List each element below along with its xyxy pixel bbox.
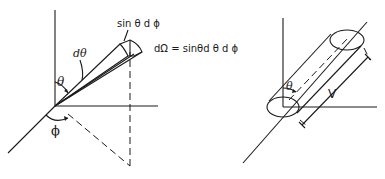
arc-length-label: sin θ d ϕ <box>117 18 160 29</box>
arc-label-pointer <box>124 30 128 41</box>
dtheta-label: dθ <box>73 47 87 60</box>
azimuth-projection-line <box>68 114 130 166</box>
right-panel: θ V <box>243 18 377 163</box>
dtheta-arc <box>80 60 83 80</box>
diagram-canvas: θ dθ ϕ sin θ d ϕ dΩ = sinθd θ d ϕ θ V <box>0 0 385 179</box>
cone-edge-inner <box>58 54 134 104</box>
cylinder-side-right <box>297 46 361 113</box>
theta-label: θ <box>57 75 65 89</box>
cylinder-side-left <box>269 34 331 101</box>
left-panel: θ dθ ϕ sin θ d ϕ dΩ = sinθd θ d ϕ <box>8 10 239 166</box>
cylinder-top <box>330 30 364 50</box>
x-axis <box>8 106 55 153</box>
phi-arrowhead <box>64 116 68 121</box>
phi-label: ϕ <box>51 123 60 138</box>
length-label: V <box>328 87 337 101</box>
solid-angle-formula: dΩ = sinθd θ d ϕ <box>154 43 239 54</box>
cone-cap <box>120 40 142 56</box>
direction-axis <box>243 22 367 163</box>
theta-label: θ <box>286 80 293 93</box>
cone-edge-upper <box>55 44 120 106</box>
